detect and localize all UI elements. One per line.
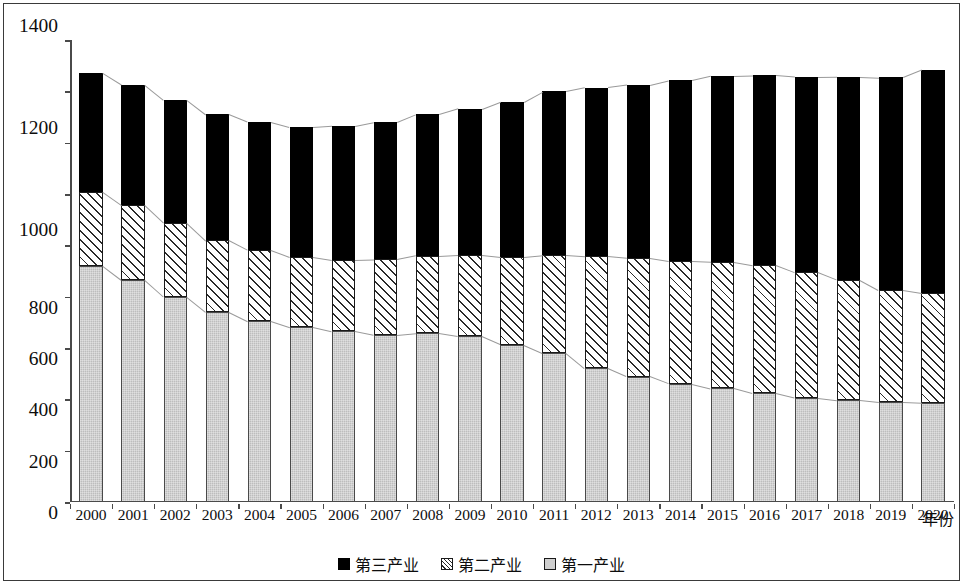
bar-segment-s1-2015 — [711, 388, 734, 502]
bar-segment-s3-2019 — [879, 77, 902, 290]
bar-segment-s1-2018 — [837, 400, 860, 502]
bar-segment-s1-2016 — [753, 393, 776, 502]
bar-2010[interactable] — [500, 102, 523, 502]
y-axis-line — [70, 40, 72, 502]
bar-2007[interactable] — [374, 122, 397, 502]
connector-s3 — [313, 126, 332, 128]
x-tick-mark — [491, 504, 492, 509]
bar-2003[interactable] — [206, 114, 229, 502]
bar-segment-s3-2012 — [585, 88, 608, 257]
x-tick-mark — [533, 504, 534, 509]
y-tick-mark — [65, 451, 70, 453]
connector-s3 — [482, 102, 501, 110]
connector-s2 — [481, 255, 500, 258]
x-tick-mark — [238, 504, 239, 509]
y-tick-mark — [65, 40, 70, 42]
x-tick-label-2001: 2001 — [118, 506, 149, 524]
x-tick-mark — [912, 504, 913, 509]
bar-2005[interactable] — [290, 127, 313, 502]
bar-segment-s2-2015 — [711, 262, 734, 389]
plot-area — [70, 40, 954, 502]
connector-s1 — [271, 321, 290, 328]
connector-s1 — [692, 384, 711, 390]
bar-2020[interactable] — [921, 70, 944, 502]
bar-segment-s1-2001 — [121, 280, 144, 502]
bar-2004[interactable] — [248, 122, 271, 502]
bar-segment-s3-2007 — [374, 122, 397, 259]
x-tick-label-2009: 2009 — [454, 506, 485, 524]
connector-s2 — [776, 265, 795, 273]
bar-2002[interactable] — [164, 100, 187, 502]
solid-black-square-icon — [338, 558, 350, 570]
connector-s3 — [144, 85, 163, 101]
bar-segment-s2-2010 — [500, 257, 523, 345]
bar-2018[interactable] — [837, 77, 860, 502]
connector-s3 — [903, 70, 922, 78]
legend-item-2[interactable]: 第一产业 — [544, 552, 625, 576]
connector-s3 — [271, 122, 290, 128]
connector-s1 — [818, 398, 837, 401]
legend-item-1[interactable]: 第二产业 — [441, 552, 522, 576]
bar-segment-s2-2008 — [416, 256, 439, 334]
bar-2011[interactable] — [542, 91, 565, 502]
bar-2016[interactable] — [753, 75, 776, 502]
bar-segment-s2-2016 — [753, 265, 776, 393]
connector-s3 — [734, 75, 753, 77]
bar-2006[interactable] — [332, 126, 355, 502]
x-tick-label-2003: 2003 — [202, 506, 233, 524]
bar-segment-s3-2006 — [332, 126, 355, 260]
connector-s3 — [692, 76, 711, 81]
x-tick-label-2015: 2015 — [707, 506, 738, 524]
bar-segment-s1-2006 — [332, 331, 355, 502]
connector-s2 — [524, 255, 543, 258]
bar-segment-s3-2018 — [837, 77, 860, 280]
bar-segment-s2-2003 — [206, 240, 229, 311]
bar-segment-s3-2017 — [795, 77, 818, 272]
x-tick-mark — [786, 504, 787, 509]
bar-segment-s3-2013 — [627, 85, 650, 258]
x-tick-mark — [112, 504, 113, 509]
x-axis-title: 年份 — [922, 506, 954, 530]
bar-2008[interactable] — [416, 114, 439, 502]
x-tick-mark — [954, 504, 955, 509]
bar-2017[interactable] — [795, 77, 818, 502]
connector-s1 — [313, 327, 332, 332]
connector-s2 — [608, 256, 627, 259]
legend-item-0[interactable]: 第三产业 — [338, 552, 419, 576]
connector-s2 — [650, 258, 669, 262]
bar-segment-s1-2004 — [248, 321, 271, 502]
bar-2014[interactable] — [669, 80, 692, 502]
bar-segment-s3-2020 — [921, 70, 944, 293]
y-tick-mark — [65, 91, 70, 93]
x-tick-label-2006: 2006 — [328, 506, 359, 524]
bar-2013[interactable] — [627, 85, 650, 502]
x-tick-label-2010: 2010 — [497, 506, 528, 524]
bar-segment-s3-2003 — [206, 114, 229, 240]
connector-s3 — [818, 77, 837, 78]
connector-s1 — [607, 368, 626, 377]
bar-2012[interactable] — [585, 87, 608, 502]
connector-s2 — [902, 290, 921, 294]
bar-segment-s2-2005 — [290, 257, 313, 327]
bar-2015[interactable] — [711, 76, 734, 502]
connector-s2 — [397, 256, 416, 261]
bar-2019[interactable] — [879, 77, 902, 502]
y-tick-mark — [65, 399, 70, 401]
bar-segment-s2-2017 — [795, 272, 818, 398]
connector-s2 — [818, 272, 837, 280]
chart-frame: 020040060080010001200140016001800 200020… — [3, 3, 960, 581]
y-tick-mark — [65, 245, 70, 247]
x-tick-mark — [280, 504, 281, 509]
x-tick-mark — [701, 504, 702, 509]
bar-2000[interactable] — [79, 73, 102, 502]
connector-s3 — [608, 85, 627, 89]
connector-s1 — [397, 333, 416, 336]
connector-s2 — [102, 192, 121, 206]
bar-2009[interactable] — [458, 109, 481, 502]
bar-segment-s3-2005 — [290, 127, 313, 257]
bar-2001[interactable] — [121, 85, 144, 502]
chart-legend: 第三产业第二产业第一产业 — [4, 552, 959, 576]
x-tick-label-2011: 2011 — [539, 506, 569, 524]
x-tick-mark — [407, 504, 408, 509]
connector-s1 — [229, 312, 248, 322]
